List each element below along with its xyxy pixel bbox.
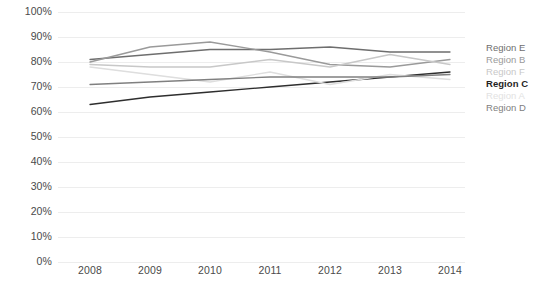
legend-item[interactable]: Region B [486,54,546,66]
y-axis-tick-label: 10% [6,231,52,242]
legend: Region ERegion BRegion FRegion CRegion A… [486,42,546,114]
y-axis-tick-label: 30% [6,181,52,192]
y-axis-tick-label: 90% [6,31,52,42]
y-axis-tick-label: 80% [6,56,52,67]
y-axis: 0%10%20%30%40%50%60%70%80%90%100% [4,0,52,302]
series-line [90,55,450,68]
x-axis-tick-label: 2009 [120,264,180,276]
y-axis-tick-label: 20% [6,206,52,217]
y-axis-tick-label: 40% [6,156,52,167]
legend-item[interactable]: Region F [486,66,546,78]
legend-item[interactable]: Region A [486,90,546,102]
line-chart: 0%10%20%30%40%50%60%70%80%90%100% 200820… [0,0,546,302]
x-axis-tick-label: 2011 [240,264,300,276]
y-axis-tick-label: 50% [6,131,52,142]
x-axis-tick-label: 2012 [300,264,360,276]
y-axis-tick-label: 100% [6,6,52,17]
plot-area [0,0,546,302]
x-axis-tick-label: 2008 [60,264,120,276]
x-axis-tick-label: 2014 [420,264,480,276]
x-axis: 2008200920102011201220132014 [0,264,546,284]
x-axis-tick-label: 2013 [360,264,420,276]
legend-item[interactable]: Region E [486,42,546,54]
legend-item[interactable]: Region D [486,102,546,114]
x-axis-tick-label: 2010 [180,264,240,276]
series-lines [90,42,450,105]
legend-item[interactable]: Region C [486,78,546,90]
y-axis-tick-label: 60% [6,106,52,117]
y-axis-tick-label: 70% [6,81,52,92]
